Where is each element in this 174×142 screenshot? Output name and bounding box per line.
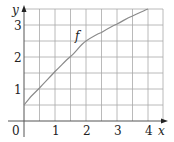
axes — [8, 8, 165, 137]
x-axis-label: x — [158, 124, 165, 138]
y-axis-label: y — [11, 3, 19, 17]
y-tick-2: 2 — [14, 51, 22, 65]
function-plot: y 3 2 1 0 1 2 3 4 x f — [0, 0, 174, 142]
x-tick-1: 1 — [52, 124, 60, 138]
y-tick-3: 3 — [14, 19, 22, 33]
x-axis-arrow-icon — [161, 119, 168, 124]
x-tick-4: 4 — [145, 124, 153, 138]
x-tick-2: 2 — [83, 124, 91, 138]
y-tick-1: 1 — [14, 83, 22, 97]
origin-label: 0 — [12, 124, 20, 138]
x-tick-3: 3 — [114, 124, 122, 138]
grid — [24, 9, 163, 121]
y-axis-arrow-icon — [22, 5, 27, 12]
